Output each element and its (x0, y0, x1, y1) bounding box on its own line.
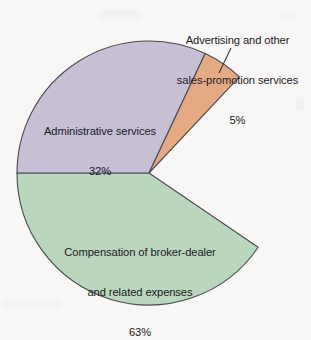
slice-label-compensation-line2: and related expenses (43, 286, 237, 299)
slice-label-administrative-line1: Administrative services (26, 125, 174, 138)
slice-label-administrative: Administrative services 32% (26, 98, 174, 205)
slice-label-compensation-line1: Compensation of broker-dealer (43, 246, 237, 259)
slice-label-advertising-line2: sales-promotion services (164, 74, 311, 87)
slice-label-advertising-line1: Advertising and other (164, 34, 311, 47)
slice-label-advertising: Advertising and other sales-promotion se… (164, 7, 311, 154)
slice-label-compensation: Compensation of broker-dealer and relate… (43, 219, 237, 340)
slice-label-administrative-value: 32% (26, 165, 174, 178)
slice-label-advertising-value: 5% (164, 114, 311, 127)
slice-label-compensation-value: 63% (43, 326, 237, 339)
